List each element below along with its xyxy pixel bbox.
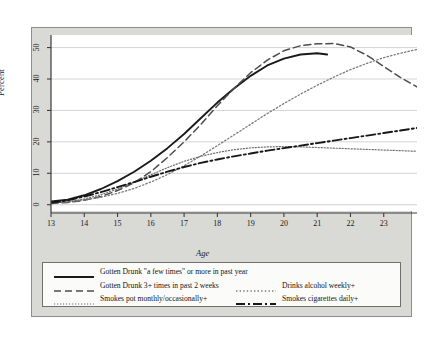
chart-figure: Percent Age 01020304050 1314151617181920…: [0, 0, 442, 337]
legend-label: Gotten Drunk "a few times" or more in pa…: [100, 267, 248, 276]
y-axis-title: Percent: [0, 69, 6, 96]
x-axis-title: Age: [196, 248, 209, 258]
x-tick-label: 20: [276, 219, 292, 228]
legend-item[interactable]: Smokes pot monthly/occasionally+: [53, 294, 207, 303]
x-tick-label: 15: [110, 219, 126, 228]
x-tick-label: 21: [309, 219, 325, 228]
legend-key-swatch: [235, 294, 277, 303]
y-tick-label: 30: [32, 103, 41, 117]
x-tick-label: 16: [143, 219, 159, 228]
plot-area: [51, 35, 417, 211]
legend-item[interactable]: Gotten Drunk 3+ times in past 2 weeks: [53, 281, 219, 290]
legend-label: Smokes pot monthly/occasionally+: [100, 294, 207, 303]
x-tick-label: 18: [209, 219, 225, 228]
x-tick-label: 17: [176, 219, 192, 228]
chart-legend: Gotten Drunk "a few times" or more in pa…: [42, 262, 401, 307]
y-tick-label: 10: [32, 166, 41, 180]
x-tick-label: 22: [342, 219, 358, 228]
x-tick-label: 23: [376, 219, 392, 228]
series-line-0: [51, 53, 327, 201]
legend-key-swatch: [53, 267, 95, 276]
x-tick-label: 13: [43, 219, 59, 228]
legend-item[interactable]: Gotten Drunk "a few times" or more in pa…: [53, 267, 248, 276]
legend-label: Smokes cigarettes daily+: [282, 294, 358, 303]
series-line-1: [51, 43, 417, 203]
series-line-4: [51, 128, 417, 203]
y-tick-label: 20: [32, 134, 41, 148]
series-line-2: [51, 49, 417, 202]
x-tick-label: 14: [76, 219, 92, 228]
legend-key-swatch: [235, 281, 277, 290]
x-tick-label: 19: [243, 219, 259, 228]
legend-label: Gotten Drunk 3+ times in past 2 weeks: [100, 281, 219, 290]
y-tick-label: 40: [32, 72, 41, 86]
legend-label: Drinks alcohol weekly+: [282, 281, 355, 290]
plot-svg: [51, 35, 417, 211]
legend-item[interactable]: Drinks alcohol weekly+: [235, 281, 355, 290]
y-tick-label: 0: [32, 197, 41, 211]
legend-key-swatch: [53, 281, 95, 290]
legend-item[interactable]: Smokes cigarettes daily+: [235, 294, 358, 303]
y-tick-label: 50: [32, 40, 41, 54]
legend-key-swatch: [53, 294, 95, 303]
